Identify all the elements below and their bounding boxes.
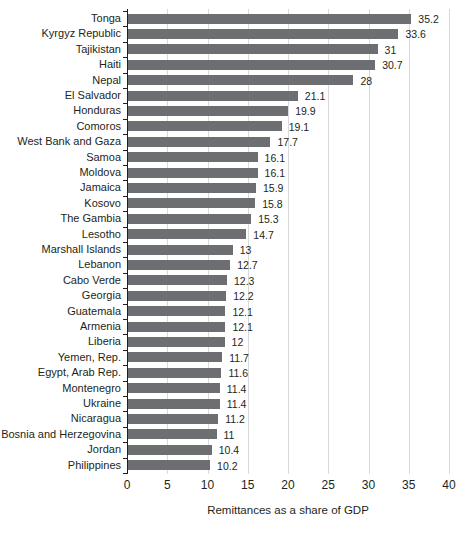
bar (128, 214, 251, 224)
country-label: Haiti (0, 57, 121, 72)
country-label: Tajikistan (0, 42, 121, 57)
bar-row: Moldova16.1 (0, 165, 472, 180)
x-axis-tick-label: 10 (201, 479, 214, 492)
country-label: Samoa (0, 150, 121, 165)
country-label: Jordan (0, 442, 121, 457)
value-label: 12 (232, 337, 244, 348)
bar-row: Lebanon12.7 (0, 257, 472, 272)
bar-row: Kosovo15.8 (0, 196, 472, 211)
bar-row: Guatemala12.1 (0, 304, 472, 319)
bar (128, 275, 227, 285)
bar (128, 445, 212, 455)
bar-row: Nicaragua11.2 (0, 411, 472, 426)
x-axis-tick-label: 30 (362, 479, 375, 492)
value-label: 12.7 (237, 260, 257, 271)
bar (128, 414, 218, 424)
bar-row: Bosnia and Herzegovina11 (0, 427, 472, 442)
bar (128, 460, 210, 470)
bar-row: Marshall Islands13 (0, 242, 472, 257)
value-label: 11.6 (228, 368, 248, 379)
bar (128, 168, 258, 178)
country-label: Comoros (0, 119, 121, 134)
x-axis-tick-label: 0 (124, 479, 131, 492)
country-label: Lesotho (0, 227, 121, 242)
country-label: Kosovo (0, 196, 121, 211)
country-label: West Bank and Gaza (0, 134, 121, 149)
bar-row: Egypt, Arab Rep.11.6 (0, 365, 472, 380)
value-label: 16.1 (265, 153, 285, 164)
bar (128, 399, 220, 409)
bar (128, 91, 298, 101)
bar-row: Philippines10.2 (0, 458, 472, 473)
bar-row: El Salvador21.1 (0, 88, 472, 103)
bar-row: Tonga35.2 (0, 11, 472, 26)
bar (128, 429, 217, 439)
value-label: 11.2 (225, 414, 245, 425)
bar-row: Yemen, Rep.11.7 (0, 350, 472, 365)
bar-row: Haiti30.7 (0, 57, 472, 72)
x-axis-tick-label: 5 (164, 479, 171, 492)
value-label: 14.7 (253, 230, 273, 241)
bar (128, 183, 256, 193)
bar-row: Armenia12.1 (0, 319, 472, 334)
country-label: Guatemala (0, 304, 121, 319)
bar (128, 383, 220, 393)
value-label: 12.1 (232, 307, 252, 318)
bar (128, 337, 225, 347)
value-label: 19.9 (295, 106, 315, 117)
x-axis-title: Remittances as a share of GDP (127, 503, 449, 517)
country-label: Egypt, Arab Rep. (0, 365, 121, 380)
country-label: Bosnia and Herzegovina (0, 427, 121, 442)
country-label: Lebanon (0, 257, 121, 272)
bar-row: Cabo Verde12.3 (0, 273, 472, 288)
bar-row: Jordan10.4 (0, 442, 472, 457)
bar (128, 14, 411, 24)
bar-row: The Gambia15.3 (0, 211, 472, 226)
value-label: 13 (240, 245, 252, 256)
country-label: Montenegro (0, 381, 121, 396)
bar-rows-container: Tonga35.2Kyrgyz Republic33.6Tajikistan31… (0, 0, 472, 534)
value-label: 15.9 (263, 183, 283, 194)
bar-row: Kyrgyz Republic33.6 (0, 26, 472, 41)
x-axis-tick-label: 35 (402, 479, 415, 492)
bar (128, 29, 398, 39)
bar-row: West Bank and Gaza17.7 (0, 134, 472, 149)
country-label: Moldova (0, 165, 121, 180)
country-label: Georgia (0, 288, 121, 303)
value-label: 28 (360, 76, 372, 87)
remittances-bar-chart: Tonga35.2Kyrgyz Republic33.6Tajikistan31… (0, 0, 472, 534)
value-label: 11 (224, 430, 235, 441)
value-label: 15.3 (258, 214, 278, 225)
x-axis-tick-label: 15 (241, 479, 254, 492)
bar (128, 106, 288, 116)
value-label: 30.7 (382, 60, 402, 71)
bar-row: Montenegro11.4 (0, 381, 472, 396)
value-label: 35.2 (418, 14, 438, 25)
country-label: The Gambia (0, 211, 121, 226)
bar-row: Georgia12.2 (0, 288, 472, 303)
x-axis-tick-label: 20 (281, 479, 294, 492)
bar-row: Jamaica15.9 (0, 180, 472, 195)
bar (128, 306, 225, 316)
value-label: 33.6 (405, 29, 425, 40)
country-label: El Salvador (0, 88, 121, 103)
country-label: Marshall Islands (0, 242, 121, 257)
country-label: Tonga (0, 11, 121, 26)
bar (128, 229, 246, 239)
country-label: Nepal (0, 73, 121, 88)
bar (128, 245, 233, 255)
bar (128, 198, 255, 208)
bar-row: Honduras19.9 (0, 103, 472, 118)
value-label: 11.4 (227, 384, 247, 395)
value-label: 17.7 (277, 137, 297, 148)
country-label: Ukraine (0, 396, 121, 411)
bar (128, 121, 282, 131)
bar-row: Ukraine11.4 (0, 396, 472, 411)
country-label: Yemen, Rep. (0, 350, 121, 365)
value-label: 15.8 (262, 199, 282, 210)
country-label: Jamaica (0, 180, 121, 195)
country-label: Liberia (0, 334, 121, 349)
bar (128, 60, 375, 70)
x-axis-tick-label: 40 (442, 479, 455, 492)
bar (128, 75, 353, 85)
